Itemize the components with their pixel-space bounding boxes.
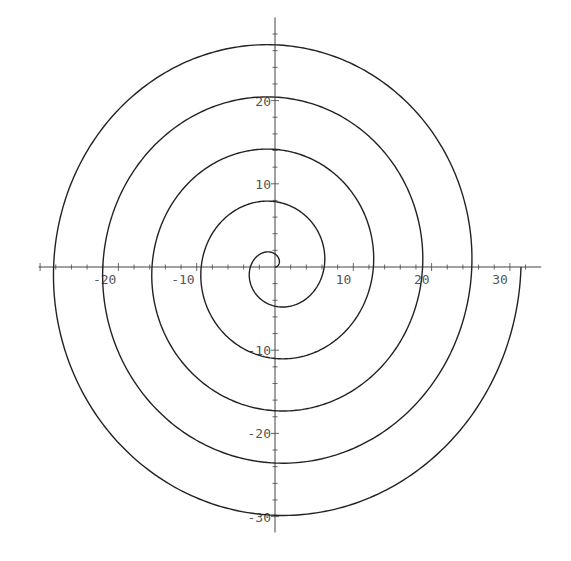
x-tick-label: 30	[492, 272, 508, 287]
tick-labels: -20-101020302010-10-20-30	[93, 94, 508, 525]
x-tick-label: 10	[336, 272, 352, 287]
spiral-curve	[53, 45, 521, 516]
y-tick-label: 20	[255, 94, 271, 109]
y-tick-label: -30	[248, 510, 271, 525]
y-tick-label: -20	[248, 426, 271, 441]
x-tick-label: -20	[93, 272, 116, 287]
x-tick-label: -10	[171, 272, 194, 287]
y-tick-label: 10	[255, 177, 271, 192]
spiral-plot: -20-101020302010-10-20-30	[0, 0, 571, 561]
